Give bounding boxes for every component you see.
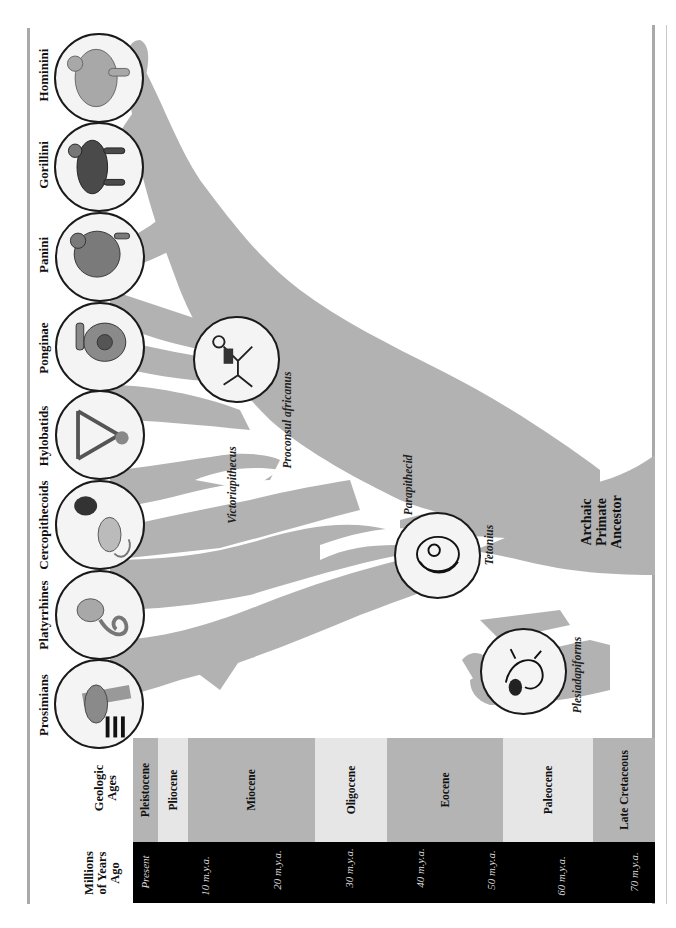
epoch-pliocene: Pliocene [158,738,188,842]
mya-tick-30: 30 m.y.a. [343,848,355,888]
chimpanzee-figure-icon [55,212,145,302]
epoch-label: Pliocene [167,770,179,811]
epoch-late-cretaceous: Late Cretaceous [593,738,655,842]
header-millions-of-years-ago: Millions of Years Ago [83,851,122,895]
tetonius-skull-icon [394,512,481,599]
mya-tick-50: 50 m.y.a. [485,850,497,890]
epoch-miocene: Miocene [188,738,315,842]
fossil-label-plesiadapiforms: Plesiadapiforms [571,637,583,714]
orangutan-figure-icon [55,302,145,392]
clade-label-hominini: Hominini [36,49,52,102]
fossil-label-tetonius: Tetonius [483,525,495,565]
header-line: Ages [106,765,119,812]
mya-tick-10: 10 m.y.a. [199,856,211,896]
clade-label-platyrrhines: Platyrrhines [36,580,52,649]
proconsul-figure-icon [193,316,280,403]
epoch-pleistocene: Pleistocene [133,738,158,842]
epoch-label: Late Cretaceous [618,750,630,830]
mya-tick-present: Present [139,855,151,888]
lemur-figure-icon [54,659,144,749]
clade-label-gorillini: Gorillini [36,141,52,189]
mya-tick-20: 20 m.y.a. [271,850,283,890]
fossil-label-parapithecid: Parapithecid [402,455,414,516]
fossil-label-victoriapithecus: Victoriapithecus [226,446,238,523]
plesiadapiforms-skeleton-icon [480,628,567,715]
ancestor-line: Ancestor [609,495,624,549]
fossil-label-proconsul: Proconsul africanus [281,372,293,469]
header-geologic-ages: Geologic Ages [93,765,119,812]
clade-label-cercopithecoids: Cercopithecoids [36,480,52,569]
new-world-monkey-figure-icon [55,570,145,660]
epoch-eocene: Eocene [387,738,503,842]
human-figure-icon [54,33,144,123]
clade-label-ponginae: Ponginae [36,322,52,373]
epoch-label: Eocene [439,772,451,807]
epoch-label: Pleistocene [139,763,151,817]
ancestor-line: Archaic [579,495,594,549]
ancestor-label: Archaic Primate Ancestor [579,495,624,549]
mya-tick-70: 70 m.y.a. [628,852,640,892]
clade-label-prosimians: Prosimians [36,674,52,736]
mya-band [133,842,655,903]
epoch-oligocene: Oligocene [315,738,387,842]
gorilla-figure-icon [54,122,144,212]
header-line: Ago [109,851,122,895]
epoch-label: Miocene [245,769,257,811]
mya-tick-40: 40 m.y.a. [414,848,426,888]
mya-tick-60: 60 m.y.a. [555,856,567,896]
old-world-monkey-figure-icon [55,480,145,570]
epoch-label: Oligocene [345,766,357,815]
gibbon-figure-icon [55,390,145,480]
epoch-label: Paleocene [542,766,554,815]
clade-label-panini: Panini [36,237,52,273]
ancestor-line: Primate [594,495,609,549]
clade-label-hylobatids: Hylobatids [36,406,52,467]
epoch-paleocene: Paleocene [503,738,593,842]
